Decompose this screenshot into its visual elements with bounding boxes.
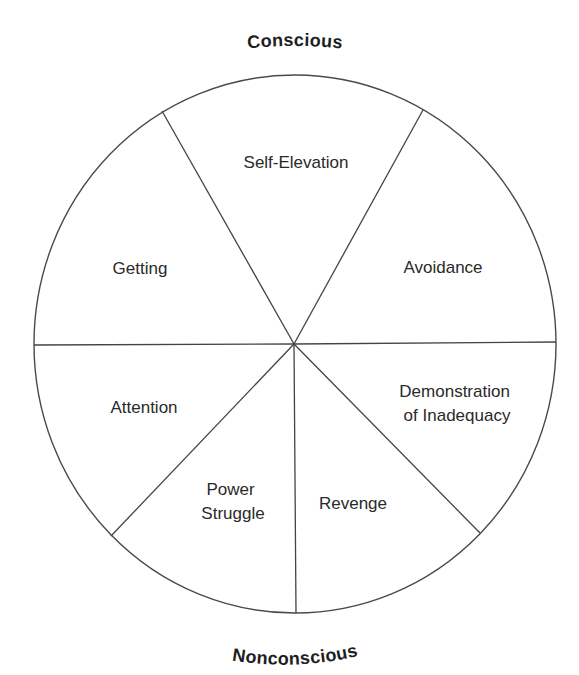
segment-label-getting: Getting	[113, 259, 168, 278]
conscious-label: Conscious	[246, 30, 343, 52]
segment-label-line: of Inadequacy	[404, 406, 511, 425]
segment-label-line: Power	[207, 480, 256, 499]
spoke-bottom	[294, 344, 296, 613]
spoke-left	[34, 344, 294, 345]
segment-label-line: Struggle	[201, 504, 264, 523]
segment-label-attention: Attention	[110, 398, 177, 417]
segment-label-power-struggle: Power Struggle	[201, 480, 264, 523]
segment-label-avoidance: Avoidance	[403, 258, 482, 277]
spoke-upper-left	[162, 111, 294, 344]
spoke-right	[294, 342, 556, 344]
motivation-circle-diagram: Conscious Nonconscious Self-Elevation Av…	[0, 0, 579, 675]
nonconscious-label: Nonconscious	[231, 640, 359, 668]
segment-label-revenge: Revenge	[319, 494, 387, 513]
segment-label-demonstration-of-inadequacy: Demonstration of Inadequacy	[399, 382, 514, 425]
segment-label-self-elevation: Self-Elevation	[244, 153, 349, 172]
spoke-upper-right	[294, 110, 423, 344]
segment-label-line: Demonstration	[399, 382, 510, 401]
